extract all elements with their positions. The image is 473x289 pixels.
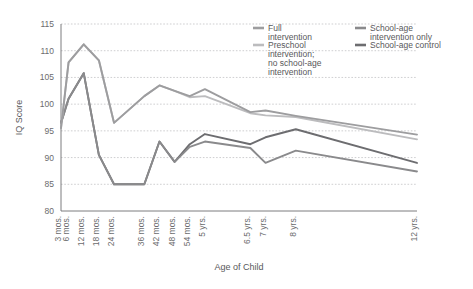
data-series-group — [61, 44, 417, 184]
chart-figure: 80859095100105110115 3 mos.6 mos.12 mos.… — [0, 0, 473, 289]
x-tick-label: 6.5 yrs. — [242, 216, 252, 244]
x-tick-label: 12 mos. — [76, 216, 86, 246]
x-tick-label: 48 mos. — [167, 216, 177, 246]
y-tick-labels: 80859095100105110115 — [40, 19, 54, 216]
legend: FullinterventionPreschoolintervention;no… — [253, 23, 441, 77]
x-axis-title: Age of Child — [214, 262, 263, 272]
y-tick-label: 105 — [40, 72, 54, 82]
x-tick-labels: 3 mos.6 mos.12 mos.18 mos.24 mos.36 mos.… — [53, 216, 419, 246]
y-axis-title: IQ Score — [14, 100, 24, 136]
x-tick-label: 6 mos. — [61, 216, 71, 242]
series-line — [61, 44, 417, 139]
series-line — [61, 44, 417, 134]
x-tick-label: 7 yrs. — [258, 216, 268, 237]
y-tick-label: 85 — [45, 179, 55, 189]
x-tick-label: 8 yrs. — [288, 216, 298, 237]
legend-label: intervention — [268, 67, 312, 77]
x-tick-label: 5 yrs. — [197, 216, 207, 237]
y-tick-label: 90 — [45, 153, 55, 163]
iq-score-line-chart: 80859095100105110115 3 mos.6 mos.12 mos.… — [0, 0, 473, 289]
y-tick-label: 100 — [40, 99, 54, 109]
y-tick-label: 110 — [40, 46, 54, 56]
gridlines — [61, 24, 417, 184]
x-tick-label: 36 mos. — [136, 216, 146, 246]
y-tick-label: 115 — [40, 19, 54, 29]
x-tick-label: 18 mos. — [91, 216, 101, 246]
x-tick-label: 24 mos. — [106, 216, 116, 246]
legend-label: School-age control — [370, 40, 441, 50]
x-tick-label: 12 yrs. — [409, 216, 419, 242]
x-tick-label: 42 mos. — [151, 216, 161, 246]
y-tick-label: 95 — [45, 126, 55, 136]
y-tick-label: 80 — [45, 206, 55, 216]
x-tick-label: 54 mos. — [182, 216, 192, 246]
